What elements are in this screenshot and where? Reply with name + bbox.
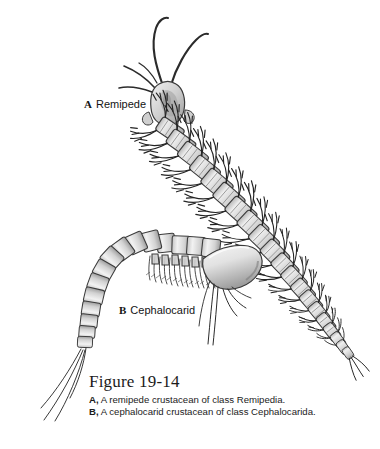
caption-line-a-text: A remipede crustacean of class Remipedia… — [99, 394, 286, 405]
cephalocarid-abdomen — [77, 230, 176, 348]
caption-line-b-letter: B, — [89, 406, 99, 417]
caption-line-b: B, A cephalocarid crustacean of class Ce… — [89, 406, 374, 418]
remipede-illustration — [119, 18, 370, 381]
panel-label-a: ARemipede — [84, 94, 146, 112]
panel-label-b-name: Cephalocarid — [130, 304, 195, 316]
caption-line-a-letter: A, — [89, 394, 99, 405]
cephalocarid-antennae — [199, 281, 251, 345]
cephalocarid-caudal-rami — [41, 348, 86, 421]
caption-body: A, A remipede crustacean of class Remipe… — [89, 394, 374, 417]
remipede-antennae — [119, 18, 208, 92]
panel-label-b: BCephalocarid — [119, 300, 195, 318]
figure-caption: Figure 19-14 A, A remipede crustacean of… — [89, 372, 374, 417]
figure-number: Figure 19-14 — [89, 372, 374, 392]
panel-label-b-letter: B — [119, 304, 126, 316]
caption-line-b-text: A cephalocarid crustacean of class Cepha… — [99, 406, 316, 417]
panel-label-a-name: Remipede — [96, 98, 146, 110]
caption-line-a: A, A remipede crustacean of class Remipe… — [89, 394, 374, 406]
panel-label-a-letter: A — [84, 98, 92, 110]
figure-container: ARemipede BCephalocarid Figure 19-14 A, … — [0, 0, 380, 449]
